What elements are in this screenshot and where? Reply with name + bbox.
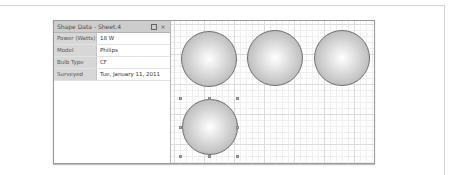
- row-label: Power (Watts): [54, 33, 97, 44]
- selection-handle-middle-left[interactable]: [179, 126, 182, 129]
- visio-drawing-window: Shape Data - Sheet.4 × Power (Watts) 18 …: [53, 20, 375, 164]
- panel-title-bar[interactable]: Shape Data - Sheet.4 ×: [54, 21, 170, 33]
- bulb-shape-4-selected[interactable]: [182, 99, 238, 155]
- close-button[interactable]: ×: [159, 21, 167, 32]
- bulb-shape-2[interactable]: [247, 30, 303, 86]
- row-label: Model: [54, 45, 97, 56]
- row-label: Surveyed: [54, 69, 97, 80]
- row-value-field[interactable]: Philips: [97, 45, 170, 56]
- row-value-field[interactable]: Tue, January 11, 2011: [97, 69, 170, 80]
- selection-handle-bottom-left[interactable]: [179, 155, 182, 158]
- drawing-canvas[interactable]: [171, 21, 374, 163]
- bulb-shape-3[interactable]: [314, 30, 370, 86]
- shape-data-row-power[interactable]: Power (Watts) 18 W: [54, 33, 170, 45]
- page-border-right: [444, 5, 445, 175]
- shape-data-row-surveyed[interactable]: Surveyed Tue, January 11, 2011: [54, 69, 170, 81]
- shape-data-row-model[interactable]: Model Philips: [54, 45, 170, 57]
- row-value-field[interactable]: CF: [97, 57, 170, 68]
- restore-window-icon: [151, 24, 157, 30]
- close-icon: ×: [160, 23, 165, 30]
- selection-handle-top-left[interactable]: [179, 97, 182, 100]
- bulb-shape-1[interactable]: [181, 31, 237, 87]
- selection-handle-bottom-right[interactable]: [236, 155, 239, 158]
- selection-handle-bottom-center[interactable]: [208, 155, 211, 158]
- shape-data-row-bulb-type[interactable]: Bulb Type CF: [54, 57, 170, 69]
- restore-button[interactable]: [150, 21, 158, 32]
- selection-handle-top-center[interactable]: [208, 97, 211, 100]
- selection-handle-middle-right[interactable]: [236, 126, 239, 129]
- page-border-top: [0, 5, 445, 6]
- row-label: Bulb Type: [54, 57, 97, 68]
- selection-handle-top-right[interactable]: [236, 97, 239, 100]
- panel-title: Shape Data - Sheet.4: [57, 23, 121, 30]
- shape-data-panel: Shape Data - Sheet.4 × Power (Watts) 18 …: [54, 21, 172, 163]
- row-value-field[interactable]: 18 W: [97, 33, 170, 44]
